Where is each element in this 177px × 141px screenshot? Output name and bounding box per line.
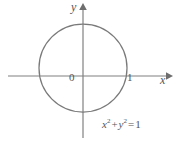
x-tick-label-1: 1 xyxy=(127,72,133,83)
y-axis-label: y xyxy=(71,1,76,13)
origin-label: 0 xyxy=(69,72,75,83)
circle-equation-annotation: x2+y2=1 xyxy=(102,119,141,130)
x-axis-label: x xyxy=(160,74,165,86)
equation-right-side: 1 xyxy=(135,118,141,130)
equation-plus-operator: + xyxy=(110,118,118,130)
y-axis-arrowhead xyxy=(79,3,87,10)
x-axis-arrowhead xyxy=(166,72,173,80)
figure-container: y x 0 1 x2+y2=1 xyxy=(0,0,177,141)
equation-equals-operator: = xyxy=(127,118,135,130)
unit-circle-diagram xyxy=(0,0,177,141)
